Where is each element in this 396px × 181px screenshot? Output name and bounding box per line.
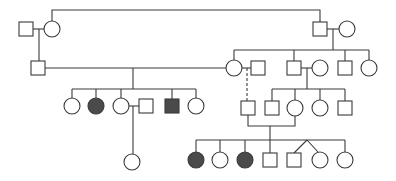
male-symbol [338,61,352,75]
twin-line [307,140,318,152]
female-symbol [339,21,355,37]
twin-line [294,140,307,153]
parent-link-line [52,10,320,22]
female-symbol [44,21,60,37]
affected-female-symbol [188,152,204,168]
affected-male-symbol [165,99,179,113]
male-symbol [287,153,301,167]
mating-line [248,115,295,126]
affected-female-symbol [88,98,104,114]
female-symbol [64,98,80,114]
male-symbol [287,61,301,75]
female-symbol [113,98,129,114]
female-symbol [312,60,328,76]
pedigree-chart [0,0,396,181]
male-symbol [31,61,45,75]
female-symbol [312,152,328,168]
female-symbol [188,98,204,114]
male-symbol [313,22,327,36]
individual-symbols [19,21,377,170]
female-symbol [312,100,328,116]
female-symbol [226,60,242,76]
female-symbol [212,152,228,168]
female-symbol [287,100,303,116]
male-symbol [265,101,279,115]
male-symbol [338,101,352,115]
female-symbol [124,154,140,170]
female-symbol [337,152,353,168]
male-symbol [263,153,277,167]
male-symbol [241,101,255,115]
male-symbol [139,99,153,113]
female-symbol [361,60,377,76]
male-symbol [19,22,33,36]
male-symbol [251,61,265,75]
affected-female-symbol [237,152,253,168]
